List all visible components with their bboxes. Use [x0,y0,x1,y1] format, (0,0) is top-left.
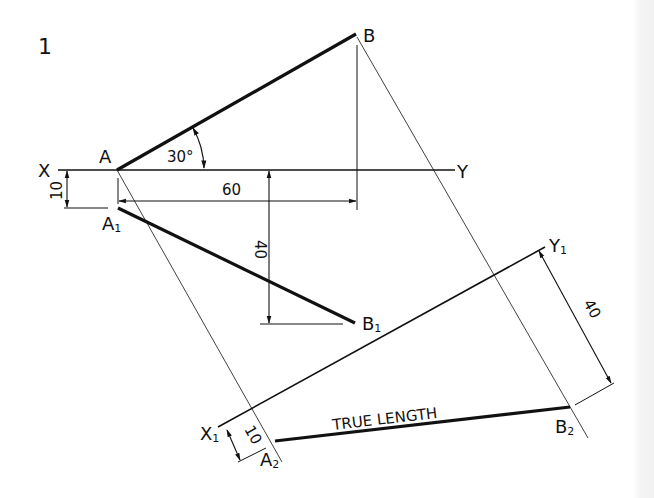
dim-aux-40-line [539,251,611,383]
label-x1: X1 [200,423,219,445]
label-a: A [99,146,112,167]
angle-arc [193,128,204,168]
projection-drawing: 1 X Y A B 30° 60 10 A1 B1 40 X1 Y1 TRUE … [0,0,654,498]
dim-60-label: 60 [222,181,241,199]
elevation-line-ab [117,34,356,170]
dim-aux-40-label: 40 [580,296,605,321]
plan-line-a1b1 [118,208,355,323]
projector-a [117,170,282,462]
label-y: Y [456,161,469,182]
angle-label: 30° [167,148,194,166]
dim-10-label: 10 [48,181,66,200]
label-x: X [38,160,50,181]
dim-40-label: 40 [251,240,269,259]
dim-aux-10-line [227,430,240,460]
label-a1: A1 [102,213,121,235]
extension-b2 [575,383,614,405]
label-b: B [363,25,375,46]
label-b1: B1 [362,313,381,335]
x1y1-reference-line [218,247,545,427]
label-y1: Y1 [548,235,567,257]
figure-number: 1 [38,34,52,59]
label-b2: B2 [555,416,574,438]
